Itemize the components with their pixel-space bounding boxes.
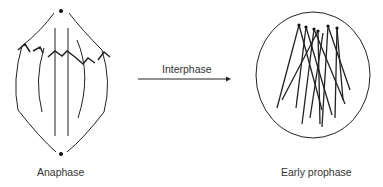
early-prophase-label: Early prophase	[281, 166, 352, 178]
interphase-label: Interphase	[162, 63, 212, 75]
early-prophase-figure	[256, 12, 370, 138]
interphase-arrow	[138, 77, 231, 82]
cell-cycle-diagram	[0, 0, 383, 187]
anaphase-figure	[16, 9, 110, 156]
spindle-pole-top	[59, 9, 63, 13]
anaphase-label: Anaphase	[37, 166, 84, 178]
spindle-pole-bottom	[59, 152, 63, 156]
